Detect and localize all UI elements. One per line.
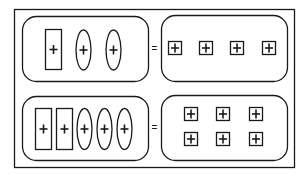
- equals-sign: =: [152, 122, 158, 133]
- unit-tile: [217, 108, 230, 121]
- rect-tile: [36, 109, 52, 150]
- equation-2: =: [23, 96, 288, 161]
- plus-icon: [101, 125, 109, 134]
- plus-icon: [110, 46, 118, 55]
- unit-tile: [169, 42, 182, 55]
- unit-tile: [217, 133, 230, 146]
- unit-tile: [231, 42, 244, 55]
- plus-icon: [40, 125, 48, 134]
- plus-icon: [61, 125, 69, 134]
- plus-icon: [252, 135, 260, 144]
- plus-icon: [252, 110, 260, 119]
- rect-tile: [46, 30, 62, 70]
- unit-tile: [263, 42, 276, 55]
- equals-sign: =: [152, 43, 158, 54]
- plus-icon: [187, 135, 195, 144]
- rect-tile: [57, 109, 73, 150]
- left-group-1: [23, 17, 149, 82]
- oval-tile: [117, 109, 132, 150]
- plus-icon: [171, 44, 179, 53]
- plus-icon: [187, 110, 195, 119]
- plus-icon: [219, 110, 227, 119]
- unit-tile: [250, 108, 263, 121]
- plus-icon: [80, 46, 88, 55]
- unit-tile: [185, 108, 198, 121]
- plus-icon: [233, 44, 241, 53]
- algebra-tiles-diagram: = =: [0, 0, 308, 175]
- plus-icon: [265, 44, 273, 53]
- oval-tile: [97, 109, 112, 150]
- oval-tile: [77, 109, 92, 150]
- plus-icon: [121, 125, 129, 134]
- right-group-2: [162, 96, 288, 161]
- equation-1: =: [23, 16, 288, 82]
- oval-tile: [76, 30, 91, 70]
- plus-icon: [50, 45, 58, 54]
- plus-icon: [219, 135, 227, 144]
- plus-icon: [202, 44, 210, 53]
- plus-icon: [81, 125, 89, 134]
- unit-tile: [185, 133, 198, 146]
- unit-tile: [250, 133, 263, 146]
- unit-tile: [200, 42, 213, 55]
- oval-tile: [106, 30, 121, 70]
